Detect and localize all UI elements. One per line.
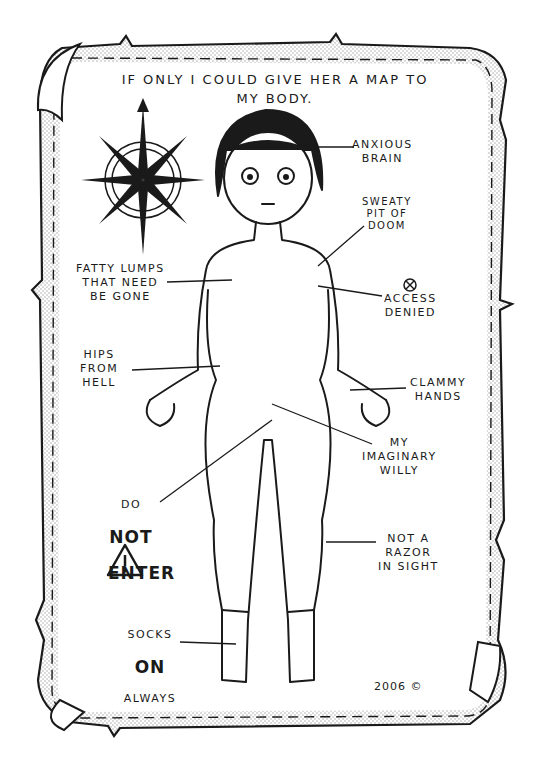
label-hips: Hips from hell bbox=[80, 348, 118, 390]
credit-year: 2006 © bbox=[374, 680, 423, 693]
page-title: If only I could give her a map to my bod… bbox=[90, 70, 460, 108]
label-socks-on: On bbox=[118, 656, 182, 678]
scroll-map-illustration: If only I could give her a map to my bod… bbox=[0, 0, 548, 762]
label-not: Not bbox=[108, 526, 154, 548]
label-clammy-hands: Clammy hands bbox=[410, 376, 466, 404]
label-access-denied: Access denied bbox=[384, 292, 437, 320]
label-sweaty-pit: Sweaty pit of doom bbox=[362, 196, 412, 232]
label-socks-top: Socks bbox=[118, 628, 182, 642]
label-enter: Enter bbox=[108, 562, 154, 584]
label-fatty-lumps: Fatty lumps that need be gone bbox=[76, 262, 165, 304]
label-do: Do bbox=[108, 498, 154, 512]
label-socks: Socks On Always bbox=[118, 614, 182, 720]
label-anxious-brain: Anxious brain bbox=[352, 138, 413, 166]
label-do-not-enter: Do Not Enter bbox=[108, 484, 154, 598]
label-socks-always: Always bbox=[118, 692, 182, 706]
label-imaginary: My imaginary willy bbox=[362, 436, 437, 478]
label-razor: Not a razor in sight bbox=[378, 532, 439, 574]
